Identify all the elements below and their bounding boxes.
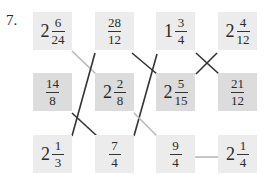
- fraction: 412: [237, 16, 250, 47]
- numerator: 7: [111, 139, 118, 153]
- whole-number: 1: [164, 21, 173, 42]
- denominator: 12: [108, 33, 121, 47]
- fraction-card-r2c3[interactable]: 2515: [156, 73, 195, 111]
- fraction-card-r1c2[interactable]: 2812: [95, 12, 134, 50]
- fraction-card-r2c1[interactable]: 148: [33, 73, 72, 111]
- denominator: 8: [49, 94, 56, 108]
- numerator: 1: [240, 139, 247, 153]
- fraction-card-r2c4[interactable]: 2112: [218, 73, 257, 111]
- numerator: 5: [178, 77, 185, 91]
- denominator: 4: [240, 156, 247, 170]
- fraction: 14: [237, 139, 249, 170]
- denominator: 3: [55, 156, 62, 170]
- whole-number: 2: [41, 144, 50, 165]
- numerator: 28: [108, 16, 121, 30]
- fraction: 94: [170, 139, 182, 170]
- whole-number: 2: [103, 82, 112, 103]
- fraction: 28: [114, 77, 126, 108]
- numerator: 9: [172, 139, 179, 153]
- denominator: 4: [111, 156, 118, 170]
- numerator: 1: [55, 139, 62, 153]
- denominator: 8: [117, 94, 124, 108]
- numerator: 4: [240, 16, 247, 30]
- fraction: 34: [175, 16, 187, 47]
- denominator: 4: [178, 33, 185, 47]
- numerator: 14: [46, 77, 59, 91]
- numerator: 21: [231, 77, 244, 91]
- fraction: 13: [52, 139, 64, 170]
- fraction-card-r1c3[interactable]: 134: [156, 12, 195, 50]
- numerator: 6: [55, 16, 62, 30]
- denominator: 15: [175, 94, 188, 108]
- denominator: 4: [172, 156, 179, 170]
- fraction-card-r3c1[interactable]: 213: [33, 135, 72, 173]
- whole-number: 2: [164, 82, 173, 103]
- fraction: 148: [46, 77, 59, 108]
- fraction-card-r3c3[interactable]: 94: [156, 135, 195, 173]
- whole-number: 2: [226, 21, 235, 42]
- whole-number: 2: [41, 21, 50, 42]
- denominator: 24: [52, 33, 65, 47]
- fraction: 2112: [231, 77, 244, 108]
- connection-line: [132, 53, 157, 74]
- fraction-card-r3c2[interactable]: 74: [95, 135, 134, 173]
- fraction: 515: [175, 77, 188, 108]
- denominator: 12: [237, 33, 250, 47]
- fraction-card-r2c2[interactable]: 228: [95, 73, 134, 111]
- fraction-card-r3c4[interactable]: 214: [218, 135, 257, 173]
- fraction: 2812: [108, 16, 121, 47]
- fraction: 74: [109, 139, 121, 170]
- denominator: 12: [231, 94, 244, 108]
- whole-number: 2: [226, 144, 235, 165]
- fraction-card-r1c1[interactable]: 2624: [33, 12, 72, 50]
- numerator: 3: [178, 16, 185, 30]
- numerator: 2: [117, 77, 124, 91]
- fraction: 624: [52, 16, 65, 47]
- fraction-card-r1c4[interactable]: 2412: [218, 12, 257, 50]
